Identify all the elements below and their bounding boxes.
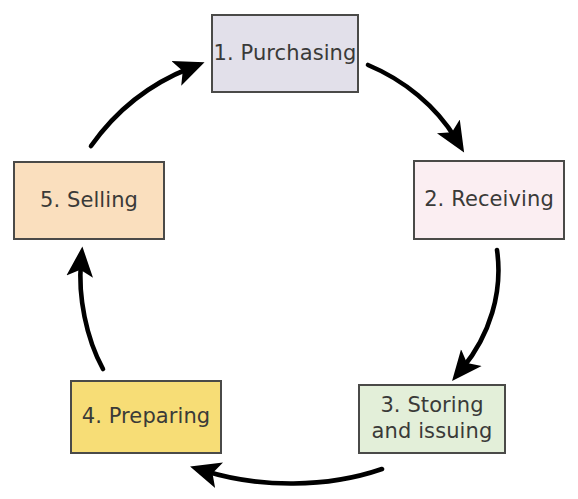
arrow-receiving-to-storing (462, 250, 498, 369)
node-preparing[interactable]: 4. Preparing (70, 380, 222, 454)
node-selling[interactable]: 5. Selling (13, 161, 165, 240)
arrow-selling-to-purchasing (91, 68, 190, 146)
node-receiving[interactable]: 2. Receiving (413, 160, 565, 240)
cycle-diagram: 1. Purchasing 2. Receiving 3. Storing an… (0, 0, 578, 499)
arrow-storing-to-preparing (205, 469, 382, 484)
arrow-preparing-to-selling (80, 262, 103, 369)
node-purchasing[interactable]: 1. Purchasing (211, 14, 359, 93)
arrow-purchasing-to-receiving (368, 65, 456, 139)
node-storing[interactable]: 3. Storing and issuing (358, 384, 506, 454)
